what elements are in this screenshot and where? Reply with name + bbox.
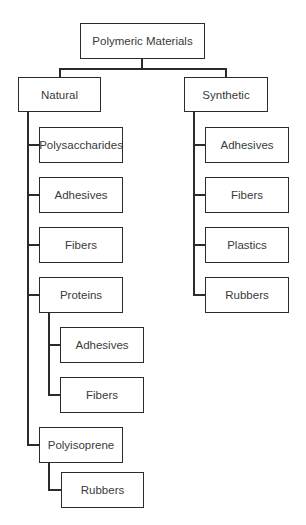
- node-synthetic-rubbers: Rubbers: [205, 277, 289, 313]
- node-natural-adhesives: Adhesives: [39, 177, 123, 213]
- node-polymeric-materials: Polymeric Materials: [80, 23, 205, 59]
- connector: [48, 462, 50, 491]
- connector: [48, 489, 62, 491]
- node-natural-fibers: Fibers: [39, 227, 123, 263]
- node-synthetic-adhesives: Adhesives: [205, 127, 289, 163]
- node-polyisoprene-rubbers: Rubbers: [61, 472, 144, 508]
- node-natural-polysaccharides: Polysaccharides: [39, 127, 123, 163]
- node-synthetic: Synthetic: [184, 77, 268, 112]
- connector: [193, 111, 195, 295]
- connector: [48, 312, 50, 396]
- node-synthetic-fibers: Fibers: [205, 177, 289, 213]
- connector: [27, 111, 29, 445]
- node-synthetic-plastics: Plastics: [205, 227, 289, 263]
- node-natural-proteins: Proteins: [39, 277, 123, 313]
- node-proteins-adhesives: Adhesives: [60, 327, 144, 363]
- node-natural: Natural: [18, 77, 101, 112]
- node-proteins-fibers: Fibers: [60, 377, 144, 413]
- node-natural-polyisoprene: Polyisoprene: [39, 427, 123, 463]
- connector: [59, 68, 226, 70]
